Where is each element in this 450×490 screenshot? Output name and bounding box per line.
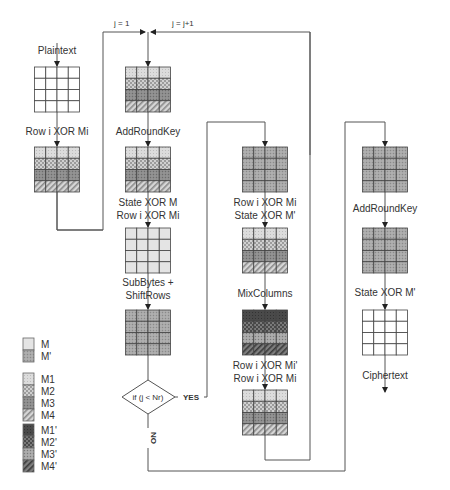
- state-cell: [46, 78, 57, 89]
- legend-swatch-M1: [23, 373, 34, 385]
- state-cell: [265, 158, 276, 169]
- state-cell: [243, 310, 254, 321]
- state-cell: [374, 239, 385, 250]
- state-cell: [68, 181, 79, 192]
- state-cell: [148, 228, 159, 239]
- state-cell: [137, 78, 148, 89]
- state-cell: [363, 321, 374, 332]
- state-cell: [254, 344, 265, 355]
- state-cell: [276, 170, 287, 181]
- state-cell: [254, 321, 265, 332]
- legend-swatch-M3: [23, 397, 34, 409]
- legend-label-M4p: M4': [41, 461, 57, 472]
- state-cell: [363, 333, 374, 344]
- state-cell: [148, 333, 159, 344]
- legend-swatch-M: [23, 338, 34, 350]
- state-cell: [148, 170, 159, 181]
- state-cell: [374, 310, 385, 321]
- state-cell: [159, 239, 170, 250]
- state-cell: [68, 90, 79, 101]
- state-cell: [374, 321, 385, 332]
- label-state-xor-mprime: State XOR M': [355, 287, 416, 298]
- state-cell: [126, 228, 137, 239]
- state-cell: [35, 170, 46, 181]
- state-cell: [276, 321, 287, 332]
- state-cell: [159, 228, 170, 239]
- state-cell: [243, 181, 254, 192]
- state-cell: [126, 170, 137, 181]
- state-cell: [57, 170, 68, 181]
- label-mixcolumns: MixColumns: [237, 288, 292, 299]
- state-cell: [137, 170, 148, 181]
- state-cell: [385, 344, 396, 355]
- state-cell: [243, 251, 254, 262]
- state-cell: [254, 262, 265, 273]
- state-cell: [243, 228, 254, 239]
- state-cell: [396, 333, 407, 344]
- label-shiftrows: ShiftRows: [125, 290, 170, 301]
- state-cell: [254, 413, 265, 424]
- state-cell: [363, 170, 374, 181]
- state-cell: [159, 67, 170, 78]
- state-cell: [385, 310, 396, 321]
- state-cell: [265, 344, 276, 355]
- state-cell: [276, 413, 287, 424]
- state-cell: [137, 251, 148, 262]
- state-grid-M1234: [35, 147, 80, 192]
- state-cell: [35, 67, 46, 78]
- state-cell: [265, 333, 276, 344]
- state-cell: [148, 262, 159, 273]
- state-cell: [385, 147, 396, 158]
- state-cell: [265, 262, 276, 273]
- state-cell: [254, 228, 265, 239]
- state-cell: [363, 239, 374, 250]
- state-cell: [137, 90, 148, 101]
- state-cell: [363, 251, 374, 262]
- state-cell: [363, 181, 374, 192]
- state-cell: [254, 333, 265, 344]
- state-cell: [243, 239, 254, 250]
- state-cell: [243, 413, 254, 424]
- state-cell: [126, 262, 137, 273]
- state-cell: [46, 181, 57, 192]
- state-cell: [57, 147, 68, 158]
- legend-label-M2p: M2': [41, 437, 57, 448]
- state-cell: [243, 424, 254, 435]
- legend-swatch-M4: [23, 409, 34, 421]
- state-cell: [254, 181, 265, 192]
- state-cell: [254, 170, 265, 181]
- state-cell: [363, 147, 374, 158]
- label-state-xor-m: State XOR M: [119, 197, 178, 208]
- state-cell: [68, 78, 79, 89]
- legend-label-M4: M4: [41, 410, 55, 421]
- state-cell: [265, 170, 276, 181]
- state-cell: [126, 78, 137, 89]
- state-cell: [68, 67, 79, 78]
- state-cell: [159, 158, 170, 169]
- state-cell: [276, 401, 287, 412]
- state-cell: [159, 147, 170, 158]
- state-cell: [265, 321, 276, 332]
- state-cell: [57, 78, 68, 89]
- state-cell: [126, 181, 137, 192]
- state-cell: [374, 228, 385, 239]
- state-grid-Mprime: [126, 310, 171, 355]
- state-cell: [243, 333, 254, 344]
- state-cell: [46, 170, 57, 181]
- state-cell: [159, 170, 170, 181]
- label-plaintext: Plaintext: [38, 45, 77, 56]
- state-cell: [374, 147, 385, 158]
- state-cell: [148, 239, 159, 250]
- state-grid-Mprime: [363, 228, 408, 273]
- legend-swatch-Mp: [23, 350, 34, 362]
- state-grid-M1234: [243, 390, 288, 435]
- state-cell: [396, 239, 407, 250]
- state-cell: [137, 67, 148, 78]
- state-cell: [363, 262, 374, 273]
- state-cell: [148, 158, 159, 169]
- state-cell: [137, 158, 148, 169]
- state-cell: [137, 181, 148, 192]
- state-cell: [276, 239, 287, 250]
- legend-label-M3: M3: [41, 398, 55, 409]
- state-cell: [46, 101, 57, 112]
